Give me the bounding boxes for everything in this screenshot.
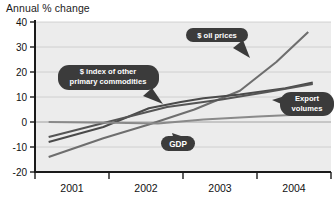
x-tick-label-2004: 2004 [282,182,306,194]
commodities-callout-label-line1: $ index of other [80,67,137,76]
commodities-callout-label-line2: primary commodities [70,77,147,86]
x-tick-label-2002: 2002 [134,182,158,194]
export-volumes-callout-label-line1: Export [295,94,320,103]
gdp-callout-label: GDP [169,140,187,149]
export-volumes-callout-label-line2: volumes [292,104,323,113]
y-tick-label: 20 [16,67,28,78]
y-tick-label: 30 [16,42,28,53]
x-tick-label-2001: 2001 [60,182,84,194]
chart-svg: 40 30 20 10 0 -10 -20 2001 2002 2003 200… [0,0,336,202]
oil-prices-callout-label: $ oil prices [197,31,237,40]
y-tick-label: 0 [21,117,27,128]
y-tick-label: 40 [16,17,28,28]
chart-root: Annual % change 40 [0,0,336,202]
y-tick-label: 10 [16,92,28,103]
x-tick-label-2003: 2003 [208,182,232,194]
x-tick-marks [35,172,331,179]
y-tick-label: -10 [13,142,28,153]
y-tick-label: -20 [13,167,28,178]
